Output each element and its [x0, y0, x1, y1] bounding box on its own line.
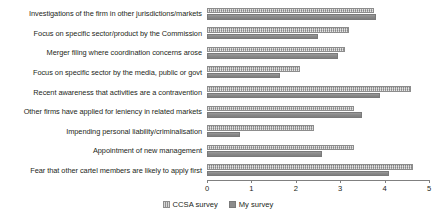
- bar-my-survey: [207, 73, 280, 79]
- category-label: Fear that other cartel members are likel…: [0, 166, 207, 175]
- bar-my-survey: [207, 112, 362, 118]
- chart-row: Investigations of the firm in other juri…: [0, 4, 436, 24]
- bar-ccsa-survey: [207, 8, 374, 14]
- chart-row: Focus on specific sector by the media, p…: [0, 63, 436, 83]
- legend-item-my-survey: My survey: [229, 200, 274, 209]
- chart-row: Focus on specific sector/product by the …: [0, 24, 436, 44]
- legend-swatch-icon: [163, 201, 170, 208]
- plot-area: Investigations of the firm in other juri…: [0, 0, 436, 184]
- bar-group: [207, 161, 436, 181]
- chart-row: Impending personal liability/criminalisa…: [0, 121, 436, 141]
- category-label: Merger filing where coordination concern…: [0, 48, 207, 57]
- bar-group: [207, 82, 436, 102]
- bar-my-survey: [207, 171, 389, 177]
- bar-ccsa-survey: [207, 106, 354, 112]
- bar-chart: Investigations of the firm in other juri…: [0, 0, 436, 221]
- chart-row: Appointment of new management: [0, 141, 436, 161]
- bar-my-survey: [207, 151, 322, 157]
- bar-group: [207, 24, 436, 44]
- bar-group: [207, 141, 436, 161]
- bar-ccsa-survey: [207, 145, 354, 151]
- category-label: Recent awareness that activities are a c…: [0, 88, 207, 97]
- legend-item-ccsa-survey: CCSA survey: [163, 200, 218, 209]
- bar-group: [207, 63, 436, 83]
- x-axis-tick-label: 5: [427, 183, 431, 194]
- legend-label: CCSA survey: [173, 200, 218, 209]
- category-rows: Investigations of the firm in other juri…: [0, 4, 436, 180]
- bar-my-survey: [207, 93, 380, 99]
- bar-group: [207, 102, 436, 122]
- x-axis-tick-label: 0: [205, 183, 209, 194]
- legend-label: My survey: [239, 200, 274, 209]
- x-axis-tick-label: 2: [294, 183, 298, 194]
- bar-group: [207, 121, 436, 141]
- bar-ccsa-survey: [207, 125, 314, 131]
- bar-ccsa-survey: [207, 66, 300, 72]
- chart-row: Fear that other cartel members are likel…: [0, 161, 436, 181]
- bar-my-survey: [207, 132, 240, 138]
- bar-ccsa-survey: [207, 164, 413, 170]
- category-label: Appointment of new management: [0, 146, 207, 155]
- category-label: Other firms have applied for leniency in…: [0, 107, 207, 116]
- category-label: Focus on specific sector/product by the …: [0, 29, 207, 38]
- bar-ccsa-survey: [207, 86, 411, 92]
- category-label: Focus on specific sector by the media, p…: [0, 68, 207, 77]
- bar-my-survey: [207, 14, 376, 20]
- x-axis-tick-label: 4: [382, 183, 386, 194]
- category-label: Impending personal liability/criminalisa…: [0, 127, 207, 136]
- bar-group: [207, 4, 436, 24]
- bar-my-survey: [207, 34, 318, 40]
- bar-ccsa-survey: [207, 47, 345, 53]
- chart-row: Merger filing where coordination concern…: [0, 43, 436, 63]
- bar-my-survey: [207, 53, 338, 59]
- bar-group: [207, 43, 436, 63]
- bar-ccsa-survey: [207, 27, 349, 33]
- chart-legend: CCSA survey My survey: [0, 200, 436, 209]
- x-axis-tick-labels: 012345: [207, 183, 429, 195]
- chart-row: Recent awareness that activities are a c…: [0, 82, 436, 102]
- category-label: Investigations of the firm in other juri…: [0, 9, 207, 18]
- legend-swatch-icon: [229, 201, 236, 208]
- x-axis-tick-label: 1: [249, 183, 253, 194]
- x-axis-tick-label: 3: [338, 183, 342, 194]
- chart-row: Other firms have applied for leniency in…: [0, 102, 436, 122]
